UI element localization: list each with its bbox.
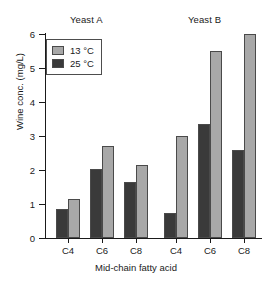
legend: 13 °C25 °C — [46, 39, 102, 75]
group-title-yeast-a: Yeast A — [70, 14, 103, 25]
group-title-yeast-b: Yeast B — [188, 14, 221, 25]
bar-25c-c4-a — [56, 209, 68, 238]
x-tick-label-c8-a: C8 — [130, 245, 142, 256]
bar-13c-c8-a — [136, 165, 148, 238]
x-tick — [210, 238, 211, 243]
x-axis-line — [45, 238, 262, 239]
x-axis-title: Mid-chain fatty acid — [0, 262, 272, 273]
y-tick-2: 2 — [39, 170, 46, 171]
legend-item: 25 °C — [52, 57, 94, 70]
x-tick — [136, 238, 137, 243]
legend-label: 13 °C — [70, 46, 94, 56]
y-tick-6: 6 — [39, 34, 46, 35]
x-tick-label-c6-a: C6 — [96, 245, 108, 256]
legend-swatch-icon — [52, 46, 64, 55]
bar-25c-c8-b — [232, 150, 244, 238]
y-axis-title: Wine conc. (mg/L) — [14, 27, 25, 157]
y-tick-label: 2 — [30, 166, 35, 176]
bar-13c-c4-b — [176, 136, 188, 238]
y-tick-5: 5 — [39, 68, 46, 69]
y-tick-label: 5 — [30, 64, 35, 74]
x-tick-label-c6-b: C6 — [204, 245, 216, 256]
y-tick-4: 4 — [39, 102, 46, 103]
legend-swatch-icon — [52, 59, 64, 68]
bar-25c-c8-a — [124, 182, 136, 238]
x-tick-label-c4-b: C4 — [170, 245, 182, 256]
bar-25c-c4-b — [164, 213, 176, 238]
x-tick-label-c4-a: C4 — [62, 245, 74, 256]
y-tick-label: 1 — [30, 200, 35, 210]
bar-13c-c6-a — [102, 146, 114, 238]
legend-label: 25 °C — [70, 59, 94, 69]
x-tick — [176, 238, 177, 243]
y-tick-label: 3 — [30, 132, 35, 142]
bar-25c-c6-a — [90, 169, 102, 238]
x-tick — [102, 238, 103, 243]
legend-item: 13 °C — [52, 44, 94, 57]
y-tick-label: 0 — [30, 234, 35, 244]
bar-25c-c6-b — [198, 124, 210, 238]
bar-13c-c6-b — [210, 51, 222, 238]
x-tick — [68, 238, 69, 243]
x-tick-label-c8-b: C8 — [238, 245, 250, 256]
y-tick-label: 4 — [30, 98, 35, 108]
y-tick-label: 6 — [30, 30, 35, 40]
x-tick — [244, 238, 245, 243]
bar-chart-figure: Yeast A Yeast B 0123456 C4C6C8C4C6C8 Win… — [0, 0, 272, 283]
bar-13c-c8-b — [244, 34, 256, 238]
y-tick-3: 3 — [39, 136, 46, 137]
bar-13c-c4-a — [68, 199, 80, 238]
y-tick-1: 1 — [39, 204, 46, 205]
y-tick-0: 0 — [39, 238, 46, 239]
